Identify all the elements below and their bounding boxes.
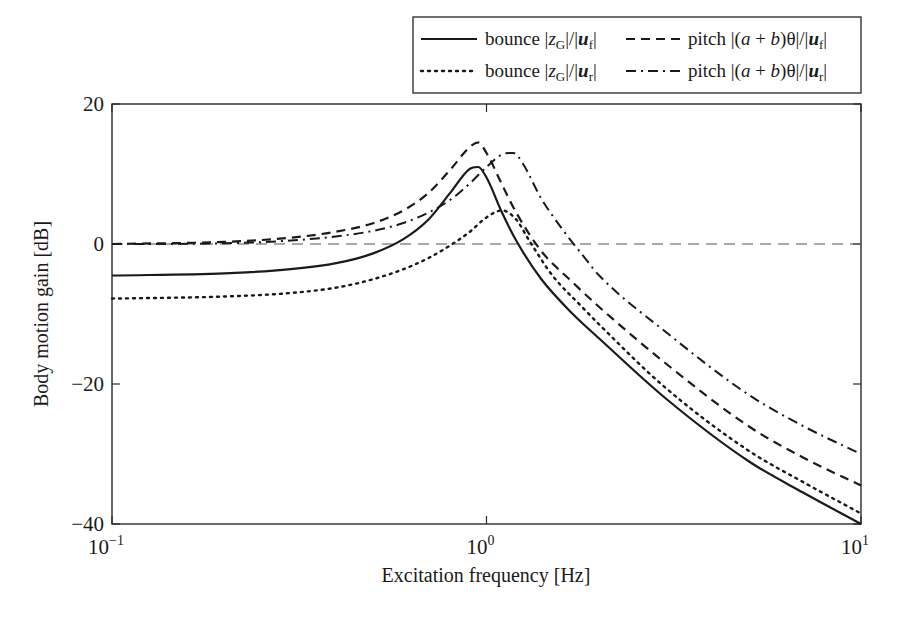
legend: bounce |zG|/|uf|pitch |(a + b)θ|/|uf|bou… [413,17,861,93]
series-group [112,143,861,525]
y-tick-label: −20 [71,372,104,396]
series-line-dotted [112,210,861,513]
chart-canvas: bounce |zG|/|uf|pitch |(a + b)θ|/|uf|bou… [0,0,907,618]
series-line-solid [112,167,861,524]
y-axis-label: Body motion gain [dB] [30,221,53,407]
x-tick-label: 100 [467,533,495,559]
y-tick-label: 20 [83,92,104,116]
x-tick-label: 101 [841,533,869,559]
legend-label: pitch |(a + b)θ|/|uf| [688,28,827,52]
series-line-dashed [112,143,861,486]
legend-label: bounce |zG|/|uf| [485,28,597,52]
axis-ticks: 200−20−4010−1100101 [71,92,869,559]
legend-label: bounce |zG|/|ur| [485,60,597,84]
x-tick-label: 10−1 [88,533,124,559]
y-tick-label: −40 [71,512,104,536]
y-tick-label: 0 [94,232,105,256]
x-axis-label: Excitation frequency [Hz] [382,564,591,587]
series-line-dash-dot [112,153,861,454]
legend-label: pitch |(a + b)θ|/|ur| [688,60,827,84]
